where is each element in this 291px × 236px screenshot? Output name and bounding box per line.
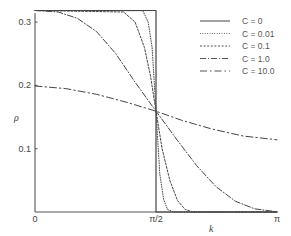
- legend-label: C = 0.1: [242, 41, 270, 51]
- y-axis-title: ρ: [13, 112, 19, 123]
- density-chart: 0.10.20.3 0π/2π ρ k C = 0C = 0.01C = 0.1…: [0, 0, 291, 236]
- y-tick-label: 0.1: [18, 144, 31, 154]
- legend: C = 0C = 0.01C = 0.1C = 1.0C = 10.0: [200, 16, 275, 76]
- series-group: [35, 11, 277, 213]
- legend-label: C = 0: [242, 16, 263, 26]
- legend-label: C = 10.0: [242, 66, 275, 76]
- x-tick-label: π: [274, 214, 280, 224]
- x-tick-label: 0: [32, 214, 37, 224]
- x-axis-title: k: [209, 223, 214, 234]
- y-tick-label: 0.3: [18, 17, 31, 27]
- x-tick-label: π/2: [149, 214, 163, 224]
- y-tick-label: 0.2: [18, 80, 31, 90]
- legend-label: C = 0.01: [242, 29, 275, 39]
- legend-label: C = 1.0: [242, 54, 270, 64]
- x-ticks: 0π/2π: [32, 214, 280, 224]
